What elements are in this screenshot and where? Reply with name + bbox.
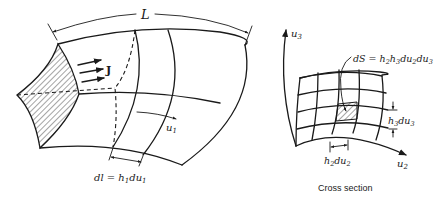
u3-axis [284, 30, 296, 146]
hatched-end-face [17, 44, 79, 148]
current-density-label: J [105, 64, 111, 77]
L-dimension-tick-right [245, 26, 252, 45]
svg-text:u2: u2 [397, 158, 408, 171]
dS-label: dS = h2h3du2du3 [353, 53, 433, 66]
top-edge [58, 29, 247, 45]
L-dimension-line [53, 14, 136, 32]
length-label: L [140, 7, 150, 22]
bottom-edge [40, 146, 182, 165]
h2du2-label: h2du2 [324, 155, 351, 168]
hidden-edge-slice [113, 30, 135, 147]
current-density-arrows [78, 60, 104, 82]
far-end-edge [182, 45, 247, 165]
dl-label: dl = h1du1 [94, 172, 147, 185]
dl-tick-right [139, 156, 143, 166]
hatched-area-element [336, 102, 357, 121]
cross-section-caption: Cross section [318, 183, 373, 193]
conductor-figure: L J u1 dl = h1du1 [17, 7, 252, 185]
u1-axis-arrow [137, 112, 176, 119]
dl-tick-left [109, 148, 113, 160]
cross-section-figure: u3 u2 dS = h2h3du2du3 [284, 28, 433, 193]
h2-dimension-line [331, 145, 347, 147]
L-dimension-tick-left [48, 24, 57, 40]
middle-edge [79, 92, 220, 103]
dl-dimension-line [111, 157, 141, 162]
slice-line-1 [113, 30, 139, 147]
h3du3-label: h3du3 [388, 115, 415, 128]
svg-text:u1: u1 [166, 122, 177, 135]
svg-text:u3: u3 [291, 28, 302, 41]
diagram-canvas: L J u1 dl = h1du1 u3 u2 [0, 0, 436, 198]
